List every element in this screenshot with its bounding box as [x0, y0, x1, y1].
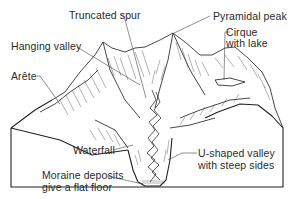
- label-pyramidal-peak: Pyramidal peak: [213, 11, 287, 22]
- label-moraine-line1: Moraine deposits: [42, 170, 124, 181]
- label-waterfall: Waterfall: [73, 145, 115, 156]
- label-u-valley-line2: with steep sides: [198, 160, 274, 171]
- label-truncated-spur: Truncated spur: [69, 10, 141, 21]
- leader-truncated-spur: [120, 14, 146, 98]
- leader-arete: [37, 76, 60, 104]
- cirque-lake: [215, 78, 245, 86]
- label-u-valley-line1: U-shaped valley: [198, 148, 275, 159]
- leader-waterfall: [113, 145, 133, 150]
- label-moraine-line2: give a flat floor: [42, 182, 112, 193]
- label-cirque-line2: with lake: [226, 38, 268, 49]
- leader-pyramidal-peak: [174, 16, 210, 33]
- label-arete: Arête: [11, 71, 37, 82]
- u-valley: [128, 138, 172, 186]
- leader-u-valley: [168, 153, 197, 160]
- label-hanging-valley: Hanging valley: [11, 41, 81, 52]
- glacial-valley-diagram: Truncated spur Pyramidal peak Hanging va…: [0, 0, 289, 199]
- leader-hanging-valley: [77, 47, 140, 85]
